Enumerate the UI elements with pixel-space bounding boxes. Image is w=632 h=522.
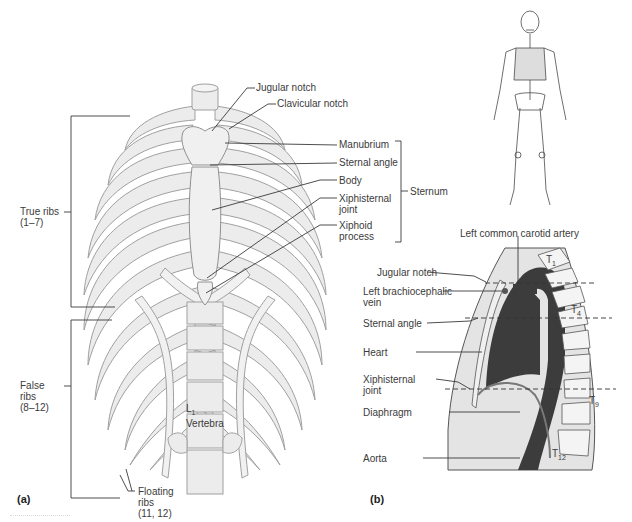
t4-sub: 4: [577, 310, 581, 317]
label-aorta: Aorta: [363, 453, 387, 464]
label-left-common-carotid: Left common carotid artery: [460, 228, 579, 239]
label-false-ribs: False ribs (8–12): [20, 380, 49, 413]
t12-sub: 12: [558, 454, 566, 461]
label-sternum: Sternum: [410, 186, 448, 197]
label-false-ribs-line3: (8–12): [20, 402, 49, 413]
panel-tag-a: (a): [17, 493, 30, 505]
carotid-stub-2: [530, 284, 537, 294]
label-floating-ribs: Floating ribs (11, 12): [138, 486, 174, 519]
label-vertebra: Vertebra: [186, 418, 224, 429]
label-heart: Heart: [363, 347, 387, 358]
label-xiphisternal-line1: Xiphisternal: [339, 193, 391, 204]
label-xiphisternal-joint-a: Xiphisternal joint: [339, 193, 391, 215]
label-t9: T9: [589, 395, 599, 410]
label-jugular-notch-b: Jugular notch: [377, 267, 437, 278]
label-xiphoid-process: Xiphoid process: [339, 220, 374, 242]
label-t4: T4: [571, 304, 581, 319]
label-floating-line3: (11, 12): [138, 508, 172, 519]
label-floating-line1: Floating: [138, 486, 174, 497]
label-left-brachiocephalic: Left brachiocephalic vein: [363, 286, 452, 308]
label-diaphragm: Diaphragm: [363, 407, 412, 418]
label-manubrium: Manubrium: [339, 139, 389, 150]
sternum-shape: [182, 127, 229, 305]
label-t1: T1: [546, 254, 556, 269]
label-xiphi-b-line1: Xiphisternal: [363, 374, 415, 385]
label-l1-vertebra: L1 Vertebra: [186, 403, 224, 429]
label-xiphisternal-line2: joint: [339, 204, 357, 215]
label-sternal-angle-a: Sternal angle: [339, 157, 398, 168]
label-false-ribs-line2: ribs: [20, 391, 36, 402]
sagittal-section: [445, 248, 616, 470]
label-xiphoid-line1: Xiphoid: [339, 220, 372, 231]
label-xiphisternal-b: Xiphisternal joint: [363, 374, 415, 396]
label-brachio-line2: vein: [363, 297, 381, 308]
panel-tag-b: (b): [370, 493, 384, 505]
rib-cage-illustration: [84, 84, 326, 494]
brachiocephalic-vein-dot: [502, 288, 508, 294]
carotid-stub-1: [513, 284, 520, 294]
label-true-ribs-line1: True ribs: [20, 206, 59, 217]
figure-canvas: [0, 0, 632, 522]
label-sternal-angle-b: Sternal angle: [363, 318, 422, 329]
label-clavicular-notch: Clavicular notch: [277, 98, 348, 109]
t1-sub: 1: [552, 260, 556, 267]
sternum-body-shape: [189, 167, 221, 280]
cut-off-caption: [10, 515, 70, 520]
label-floating-line2: ribs: [138, 497, 154, 508]
label-false-ribs-line1: False: [20, 380, 44, 391]
t9-sub: 9: [595, 401, 599, 408]
label-brachio-line1: Left brachiocephalic: [363, 286, 452, 297]
inset-skeleton: [494, 11, 566, 205]
label-t12: T12: [552, 448, 566, 463]
label-l1-sub: 1: [192, 409, 196, 416]
label-xiphoid-line2: process: [339, 231, 374, 242]
label-true-ribs: True ribs (1–7): [20, 206, 59, 228]
label-xiphi-b-line2: joint: [363, 385, 381, 396]
label-jugular-notch-a: Jugular notch: [256, 82, 316, 93]
label-true-ribs-line2: (1–7): [20, 217, 43, 228]
label-body: Body: [339, 175, 362, 186]
